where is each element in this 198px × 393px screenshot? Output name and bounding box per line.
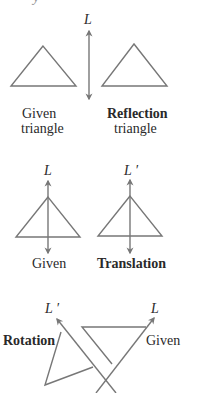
translation-given-axis-label: L	[44, 163, 52, 178]
given-triangle-reflection	[11, 46, 76, 86]
rotation-result-label: Rotation	[3, 333, 55, 348]
translation-result-axis-label: L ′	[124, 163, 138, 178]
rotation-given-label: Given	[146, 333, 180, 348]
reflection-triangle	[102, 44, 167, 86]
reflection-triangle-label-line2: triangle	[114, 121, 157, 136]
rotation-result-axis-label: L ′	[45, 301, 59, 316]
translation-given-label: Given	[32, 256, 66, 271]
given-triangle-label-line1: Given	[22, 106, 56, 121]
rotation-given-axis-label: L	[151, 301, 159, 316]
top-fragment-text: y	[33, 0, 39, 5]
given-triangle-label-line2: triangle	[21, 121, 64, 136]
translation-result-label: Translation	[97, 256, 166, 271]
reflection-axis-label: L	[84, 12, 92, 27]
given-triangle-rotation	[82, 327, 146, 364]
reflection-triangle-label-line1: Reflection	[107, 106, 168, 121]
rotated-axis-arrow	[57, 319, 116, 393]
